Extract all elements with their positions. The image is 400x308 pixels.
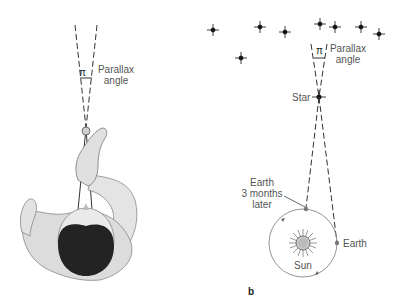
earth-later-line3: later [240, 199, 284, 210]
panel-a-pi-symbol: π [79, 67, 86, 78]
earth-later-label: Earth 3 months later [240, 177, 284, 210]
finger-tip [82, 127, 90, 135]
star-icon [314, 18, 326, 30]
star-icon [235, 52, 247, 64]
earth-later-line2: 3 months [240, 188, 284, 199]
earth-position-marker [335, 241, 339, 245]
panel-b-parallax-label: Parallax angle [328, 43, 368, 65]
sight-line-to-earth [319, 97, 337, 243]
star-icon [355, 21, 367, 33]
parallax-label-line2: angle [328, 54, 368, 65]
sight-line-to-earth-later [306, 97, 319, 208]
parallax-label-line1: Parallax [96, 64, 136, 75]
sun-label: Sun [294, 260, 312, 271]
star-icon [373, 28, 385, 40]
parallax-label-line1: Parallax [328, 43, 368, 54]
orbit-direction-arrow [281, 218, 285, 222]
nose [83, 203, 89, 210]
earth-label: Earth [343, 238, 367, 249]
star-icon [207, 24, 219, 36]
star-icon [254, 21, 266, 33]
earth-later-position-marker [304, 207, 308, 211]
panel-b-pi-symbol: π [316, 45, 323, 56]
earth-later-line1: Earth [240, 177, 284, 188]
panel-a-parallax-label: Parallax angle [96, 64, 136, 86]
sun-icon [289, 229, 317, 257]
star-icon [329, 21, 341, 33]
star-icon [279, 26, 291, 38]
earth-later-leader-line [284, 196, 305, 207]
parallax-label-line2: angle [96, 75, 136, 86]
panel-letter: b [248, 286, 254, 297]
star-label: Star [292, 92, 310, 103]
